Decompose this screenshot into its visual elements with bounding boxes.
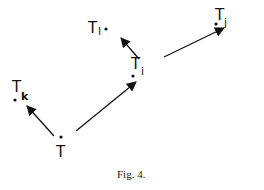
node-Tk: T k xyxy=(11,78,29,103)
edge-T-to-Tk xyxy=(27,106,54,136)
edge-Ti-to-Tj xyxy=(164,28,224,57)
node-subscript: k xyxy=(21,90,29,103)
tree-diagram: T T k T i T l T j Fig. 4. xyxy=(0,0,264,190)
node-label: T xyxy=(87,19,98,37)
figure-caption: Fig. 4. xyxy=(117,168,146,180)
node-T: T xyxy=(55,135,66,161)
node-dot xyxy=(59,135,62,138)
node-Tj: T j xyxy=(214,6,227,29)
node-dot xyxy=(104,27,107,30)
node-Ti: T i xyxy=(130,55,144,78)
node-label: T xyxy=(55,143,66,161)
node-subscript: j xyxy=(223,16,227,29)
node-subscript: l xyxy=(98,25,101,38)
node-dot xyxy=(13,98,16,101)
edge-T-to-Ti xyxy=(76,82,136,131)
node-Tl: T l xyxy=(87,19,108,38)
node-label: T xyxy=(130,55,141,73)
node-dot xyxy=(131,74,134,77)
node-subscript: i xyxy=(141,65,144,78)
